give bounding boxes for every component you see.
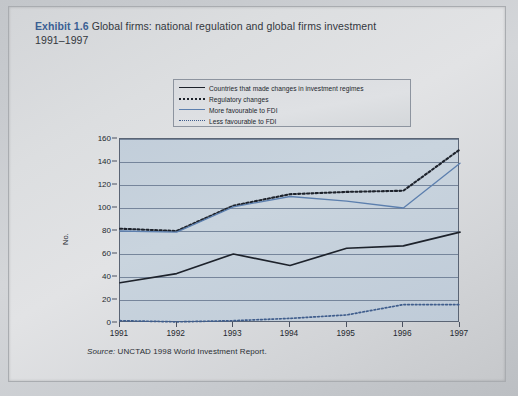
chart-legend: Countries that made changes in investmen… bbox=[173, 79, 411, 127]
legend-item-more-favourable: More favourable to FDI bbox=[179, 105, 406, 116]
x-axis-tick-mark bbox=[459, 322, 460, 327]
y-axis-tick-label: 60 bbox=[71, 249, 111, 258]
legend-line-dotted-blue-icon bbox=[179, 117, 205, 125]
source-text: UNCTAD 1998 World Investment Report. bbox=[118, 347, 267, 356]
y-axis-tick-mark bbox=[112, 207, 117, 208]
y-axis-tick-mark bbox=[112, 253, 117, 254]
y-axis-tick-mark bbox=[112, 299, 117, 300]
x-axis-tick-label: 1993 bbox=[223, 328, 241, 338]
x-axis-tick-mark bbox=[119, 322, 120, 327]
y-axis-tick-mark bbox=[112, 322, 117, 323]
y-axis-ticks: 020406080100120140160 bbox=[73, 133, 117, 331]
y-axis-tick-mark bbox=[112, 184, 117, 185]
legend-label: Regulatory changes bbox=[209, 96, 269, 103]
legend-line-solid-blue-icon bbox=[179, 106, 205, 114]
x-axis-ticks: 1991199219931994199519961997 bbox=[119, 322, 459, 344]
x-axis-tick-label: 1992 bbox=[166, 328, 184, 338]
x-axis-tick-mark bbox=[176, 322, 177, 327]
x-axis-tick-mark bbox=[402, 322, 403, 327]
exhibit-number: Exhibit 1.6 bbox=[35, 20, 89, 32]
exhibit-card: Exhibit 1.6 Global firms: national regul… bbox=[8, 6, 506, 382]
legend-label: Less favourable to FDI bbox=[209, 118, 276, 125]
exhibit-header: Exhibit 1.6 Global firms: national regul… bbox=[35, 19, 475, 47]
y-axis-label: No. bbox=[61, 233, 70, 245]
exhibit-subtitle: 1991–1997 bbox=[35, 33, 475, 47]
y-axis-tick-label: 0 bbox=[71, 318, 111, 327]
x-axis-tick-label: 1995 bbox=[336, 328, 354, 338]
x-axis-tick-mark bbox=[232, 322, 233, 327]
y-axis-tick-label: 100 bbox=[71, 203, 111, 212]
source-prefix: Source: bbox=[87, 347, 115, 356]
plot-area bbox=[119, 138, 459, 322]
series-line bbox=[120, 232, 460, 283]
x-axis-tick-label: 1994 bbox=[280, 328, 298, 338]
x-axis-tick-label: 1991 bbox=[110, 328, 128, 338]
y-axis-tick-label: 20 bbox=[71, 295, 111, 304]
plot-wrapper: No. 020406080100120140160 19911992199319… bbox=[55, 133, 467, 331]
legend-label: More favourable to FDI bbox=[209, 107, 278, 114]
chart-container: Countries that made changes in investmen… bbox=[55, 67, 467, 367]
y-axis-tick-mark bbox=[112, 138, 117, 139]
x-axis-tick-label: 1997 bbox=[450, 328, 468, 338]
legend-item-countries: Countries that made changes in investmen… bbox=[179, 83, 406, 94]
y-axis-tick-label: 40 bbox=[71, 272, 111, 281]
y-axis-tick-label: 140 bbox=[71, 157, 111, 166]
y-axis-tick-mark bbox=[112, 276, 117, 277]
legend-label: Countries that made changes in investmen… bbox=[209, 85, 364, 92]
y-axis-tick-mark bbox=[112, 161, 117, 162]
screenshot-page: Exhibit 1.6 Global firms: national regul… bbox=[0, 0, 518, 396]
legend-item-regulatory: Regulatory changes bbox=[179, 94, 406, 105]
y-axis-tick-label: 160 bbox=[71, 134, 111, 143]
legend-line-dotted-dark-icon bbox=[179, 95, 205, 103]
exhibit-title: Global firms: national regulation and gl… bbox=[92, 20, 377, 32]
series-line bbox=[120, 163, 460, 232]
x-axis-tick-label: 1996 bbox=[393, 328, 411, 338]
legend-line-solid-dark-icon bbox=[179, 84, 205, 92]
source-note: Source: UNCTAD 1998 World Investment Rep… bbox=[87, 347, 267, 356]
y-axis-tick-label: 120 bbox=[71, 180, 111, 189]
series-line bbox=[120, 149, 460, 231]
y-axis-tick-label: 80 bbox=[71, 226, 111, 235]
series-line bbox=[120, 305, 460, 322]
x-axis-tick-mark bbox=[289, 322, 290, 327]
series-lines bbox=[120, 139, 460, 323]
y-axis-tick-mark bbox=[112, 230, 117, 231]
x-axis-tick-mark bbox=[346, 322, 347, 327]
legend-item-less-favourable: Less favourable to FDI bbox=[179, 116, 406, 127]
